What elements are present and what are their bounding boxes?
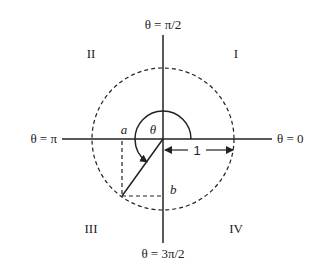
axis-label-right: θ = 0 bbox=[277, 131, 304, 146]
point-label-b: b bbox=[170, 182, 177, 197]
axis-label-left: θ = π bbox=[30, 131, 57, 146]
axis-label-top: θ = π/2 bbox=[145, 17, 182, 32]
radius-ray bbox=[122, 139, 163, 196]
radius-label: 1 bbox=[193, 143, 200, 158]
point-label-a: a bbox=[121, 122, 128, 137]
polar-diagram: θ = π/2 θ = 0 θ = π θ = 3π/2 I II III IV… bbox=[0, 0, 319, 277]
quadrant-label-1: I bbox=[234, 46, 238, 61]
angle-label: θ bbox=[150, 122, 157, 137]
axis-label-bottom: θ = 3π/2 bbox=[141, 246, 184, 261]
quadrant-label-4: IV bbox=[229, 221, 243, 236]
quadrant-label-3: III bbox=[85, 221, 98, 236]
quadrant-label-2: II bbox=[87, 46, 96, 61]
